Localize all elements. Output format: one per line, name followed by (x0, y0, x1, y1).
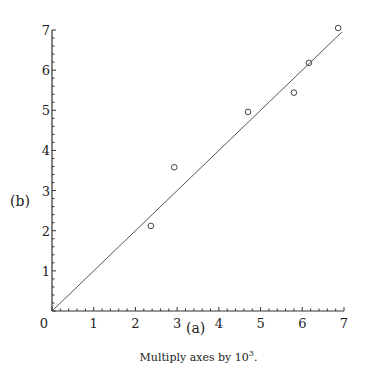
x-tick-label: 0 (40, 316, 48, 331)
data-point (335, 25, 341, 31)
x-tick-label: 7 (340, 316, 348, 331)
scatter-chart: 012345671234567 (b) (a) (0, 0, 367, 380)
caption-period: . (254, 351, 258, 364)
y-axis-label: (b) (10, 193, 30, 209)
y-tick-label: 2 (42, 224, 50, 239)
data-point (306, 60, 312, 66)
y-tick-label: 6 (42, 63, 50, 78)
data-point (245, 109, 251, 115)
x-tick-label: 2 (131, 316, 139, 331)
data-point (148, 223, 154, 229)
fit-line-path (52, 32, 342, 311)
y-tick-label: 5 (42, 103, 50, 118)
caption: Multiply axes by 103. (0, 349, 367, 364)
fit-line (52, 32, 342, 311)
x-tick-label: 5 (256, 316, 264, 331)
caption-text: Multiply axes by 10 (140, 351, 249, 364)
x-tick-label: 3 (173, 316, 181, 331)
x-tick-label: 4 (215, 316, 223, 331)
axes: 012345671234567 (40, 23, 348, 331)
data-point (291, 90, 297, 96)
data-point (171, 164, 177, 170)
x-axis-label: (a) (186, 320, 205, 336)
data-points (148, 25, 341, 229)
y-tick-label: 3 (42, 184, 50, 199)
x-tick-label: 6 (298, 316, 306, 331)
x-tick-label: 1 (90, 316, 98, 331)
y-tick-label: 4 (42, 143, 50, 158)
y-tick-label: 1 (42, 264, 50, 279)
y-tick-label: 7 (42, 23, 50, 38)
